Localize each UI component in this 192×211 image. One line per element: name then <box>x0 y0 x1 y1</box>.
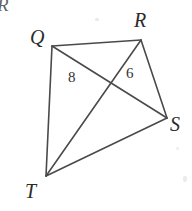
diagonal-RT <box>46 40 141 176</box>
segment-length-label-8: 8 <box>68 70 76 85</box>
vertex-label-t: T <box>25 181 36 201</box>
corner-artifact-letter: R <box>0 0 9 14</box>
scan-speck <box>95 18 99 21</box>
edge-QR <box>52 40 141 46</box>
geometry-figure: R Q R S T 8 6 <box>0 0 192 211</box>
edge-TQ <box>46 46 52 176</box>
vertex-label-r: R <box>134 10 146 30</box>
vertex-label-s: S <box>170 114 180 134</box>
scan-speck <box>183 176 187 182</box>
segment-length-label-6: 6 <box>126 66 134 81</box>
scan-speck <box>176 147 179 150</box>
edge-ST <box>46 118 167 176</box>
edge-RS <box>141 40 167 118</box>
vertex-label-q: Q <box>30 27 44 47</box>
